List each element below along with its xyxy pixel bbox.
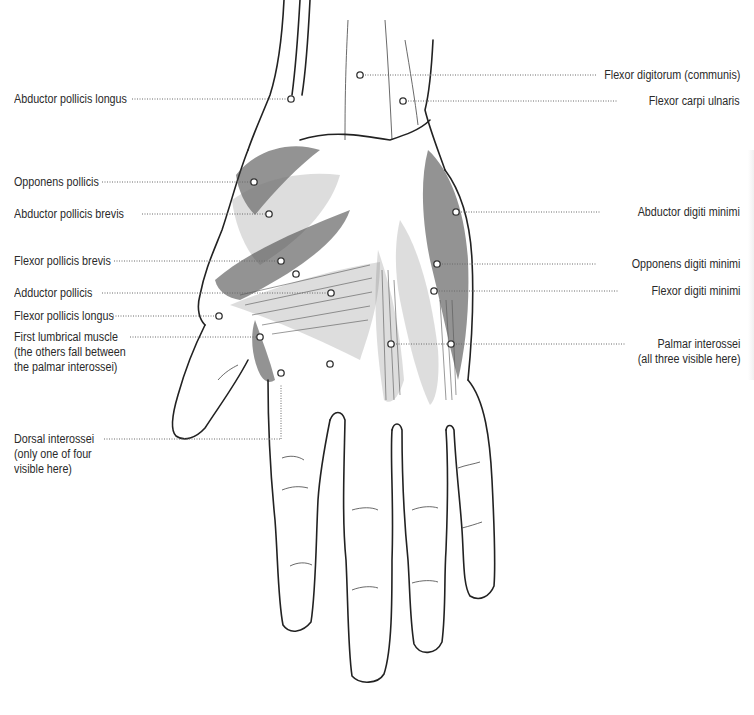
pin-adductor-pollicis [328, 290, 334, 296]
label-flexor-digitorum-communis: Flexor digitorum (communis) [604, 68, 740, 83]
label-dorsal-interossei: Dorsal interossei (only one of four visi… [14, 432, 94, 477]
label-flexor-digiti-minimi: Flexor digiti minimi [651, 284, 740, 299]
pin-opponens-digiti-minimi [434, 261, 440, 267]
label-abductor-pollicis-brevis: Abductor pollicis brevis [14, 207, 124, 222]
label-text: Flexor digitorum (communis) [604, 68, 740, 82]
label-flexor-pollicis-longus: Flexor pollicis longus [14, 309, 114, 324]
label-flexor-carpi-ulnaris: Flexor carpi ulnaris [649, 94, 740, 109]
label-text: Dorsal interossei [14, 432, 94, 447]
pin-dorsal-interossei [278, 370, 284, 376]
label-text: First lumbrical muscle [14, 330, 126, 345]
pin-flexor-carpi-ulnaris [400, 98, 406, 104]
label-note: (only one of four [14, 447, 94, 462]
leader-lines-right [360, 75, 625, 344]
label-opponens-digiti-minimi: Opponens digiti minimi [631, 257, 740, 272]
label-abductor-digiti-minimi: Abductor digiti minimi [638, 205, 740, 220]
label-text: Adductor pollicis [14, 286, 92, 300]
label-text: Abductor pollicis longus [14, 92, 127, 106]
fingers-outline [268, 380, 495, 682]
page-edge-shadow [748, 150, 754, 380]
label-first-lumbrical-muscle: First lumbrical muscle (the others fall … [14, 330, 126, 375]
label-adductor-pollicis: Adductor pollicis [14, 286, 92, 301]
label-opponens-pollicis: Opponens pollicis [14, 175, 99, 190]
hypothenar-muscles [396, 150, 469, 405]
pin-first-lumbrical [257, 334, 263, 340]
label-text: Opponens digiti minimi [631, 257, 740, 271]
pin-abductor-pollicis-longus [288, 96, 294, 102]
label-note: the palmar interossei) [14, 360, 126, 375]
label-text: Flexor pollicis longus [14, 309, 114, 323]
pin-flexor-pollicis-brevis-2 [293, 271, 299, 277]
label-text: Opponens pollicis [14, 175, 99, 189]
label-note: (all three visible here) [637, 352, 740, 367]
pin-flexor-pollicis-brevis [278, 258, 284, 264]
pin-flexor-pollicis-longus [216, 313, 222, 319]
forearm-outline [248, 0, 445, 170]
label-text: Flexor carpi ulnaris [649, 94, 740, 108]
label-text: Palmar interossei [637, 337, 740, 352]
thumb-outline [172, 325, 248, 439]
pin-abductor-digiti-minimi [453, 209, 459, 215]
pin-palmar-interossei-1 [388, 341, 394, 347]
label-note: visible here) [14, 462, 94, 477]
label-text: Abductor pollicis brevis [14, 207, 124, 221]
pin-flexor-digitorum [357, 72, 363, 78]
label-text: Flexor pollicis brevis [14, 254, 111, 268]
pin-abductor-pollicis-brevis [266, 211, 272, 217]
label-palmar-interossei: Palmar interossei (all three visible her… [637, 337, 740, 367]
thenar-muscles [215, 146, 380, 360]
pin-palmar-interossei-2 [448, 341, 454, 347]
label-note: (the others fall between [14, 345, 126, 360]
pin-lumbrical-2 [327, 361, 333, 367]
pin-opponens-pollicis [251, 179, 257, 185]
label-text: Abductor digiti minimi [638, 205, 740, 219]
label-text: Flexor digiti minimi [651, 284, 740, 298]
pin-flexor-digiti-minimi [431, 288, 437, 294]
label-flexor-pollicis-brevis: Flexor pollicis brevis [14, 254, 111, 269]
label-abductor-pollicis-longus: Abductor pollicis longus [14, 92, 127, 107]
